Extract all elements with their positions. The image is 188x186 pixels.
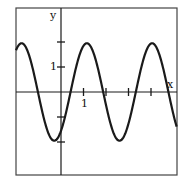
y-axis-label: y [49,9,57,22]
function-graph: y x 1 1 [0,0,188,186]
x-tick-label-1: 1 [81,97,88,110]
x-axis-label: x [167,78,174,91]
y-tick-label-1: 1 [50,60,57,73]
